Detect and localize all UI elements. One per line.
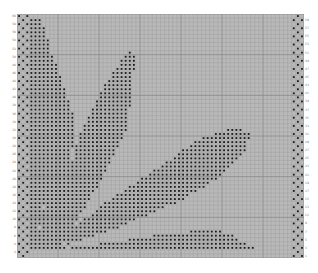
stitch-dot [59, 178, 61, 180]
stitch-dot [26, 153, 28, 155]
stitch-dot [39, 157, 41, 159]
stitch-dot [293, 157, 295, 159]
stitch-dot [166, 194, 168, 196]
stitch-dot [26, 235, 28, 237]
stitch-dot [51, 153, 53, 155]
stitch-dot [51, 80, 53, 82]
stitch-dot [63, 101, 65, 103]
stitch-dot [235, 141, 237, 143]
stitch-dot [186, 149, 188, 151]
row-label: 41 [305, 91, 309, 95]
stitch-dot [125, 125, 127, 127]
stitch-dot [137, 186, 139, 188]
stitch-dot [203, 153, 205, 155]
stitch-dot [297, 145, 299, 147]
stitch-dot [35, 27, 37, 29]
stitch-dot [30, 84, 32, 86]
stitch-dot [51, 210, 53, 212]
stitch-dot [92, 186, 94, 188]
stitch-dot [43, 227, 45, 229]
stitch-dot [43, 121, 45, 123]
stitch-dot [55, 214, 57, 216]
stitch-dot [133, 194, 135, 196]
row-label: 20 [12, 177, 16, 181]
stitch-dot [145, 202, 147, 204]
stitch-dot [162, 170, 164, 172]
stitch-dot [47, 109, 49, 111]
stitch-dot [96, 109, 98, 111]
stitch-dot [203, 182, 205, 184]
stitch-dot [22, 27, 24, 29]
stitch-dot [162, 243, 164, 245]
stitch-dot [43, 133, 45, 135]
stitch-dot [121, 218, 123, 220]
stitch-dot [117, 101, 119, 103]
stitch-dot [211, 243, 213, 245]
stitch-dot [301, 125, 303, 127]
stitch-dot [215, 145, 217, 147]
stitch-dot [88, 166, 90, 168]
stitch-dot [207, 178, 209, 180]
stitch-dot [88, 145, 90, 147]
stitch-dot [84, 137, 86, 139]
stitch-dot [30, 206, 32, 208]
stitch-dot [231, 129, 233, 131]
stitch-dot [35, 68, 37, 70]
stitch-dot [166, 182, 168, 184]
stitch-dot [39, 243, 41, 245]
stitch-dot [297, 48, 299, 50]
stitch-dot [63, 141, 65, 143]
stitch-dot [145, 194, 147, 196]
stitch-dot [297, 40, 299, 42]
row-label: 24 [12, 160, 16, 164]
stitch-dot [55, 80, 57, 82]
stitch-dot [186, 166, 188, 168]
stitch-dot [96, 133, 98, 135]
stitch-dot [39, 64, 41, 66]
stitch-dot [133, 190, 135, 192]
stitch-dot [96, 231, 98, 233]
stitch-dot [71, 166, 73, 168]
stitch-dot [129, 206, 131, 208]
stitch-dot [30, 190, 32, 192]
stitch-dot [71, 214, 73, 216]
stitch-dot [84, 174, 86, 176]
stitch-dot [108, 80, 110, 82]
stitch-dot [39, 60, 41, 62]
stitch-dot [293, 19, 295, 21]
stitch-dot [108, 214, 110, 216]
stitch-dot [67, 218, 69, 220]
stitch-dot [18, 194, 20, 196]
stitch-dot [43, 27, 45, 29]
stitch-dot [63, 218, 65, 220]
stitch-dot [18, 235, 20, 237]
row-label: 6 [14, 234, 16, 238]
stitch-dot [301, 92, 303, 94]
stitch-dot [59, 202, 61, 204]
stitch-dot [76, 178, 78, 180]
stitch-dot [88, 235, 90, 237]
stitch-dot [80, 235, 82, 237]
stitch-dot [248, 137, 250, 139]
stitch-dot [125, 214, 127, 216]
stitch-dot [30, 121, 32, 123]
stitch-dot [104, 231, 106, 233]
stitch-dot [301, 117, 303, 119]
stitch-dot [301, 190, 303, 192]
stitch-dot [215, 247, 217, 249]
stitch-dot [67, 162, 69, 164]
stitch-dot [108, 129, 110, 131]
stitch-dot [71, 239, 73, 241]
stitch-dot [240, 243, 242, 245]
stitch-dot [199, 166, 201, 168]
stitch-dot [235, 149, 237, 151]
stitch-dot [22, 35, 24, 37]
stitch-dot [125, 129, 127, 131]
stitch-dot [182, 170, 184, 172]
stitch-dot [141, 198, 143, 200]
stitch-dot [47, 227, 49, 229]
row-label: 58 [12, 22, 16, 26]
stitch-dot [137, 214, 139, 216]
stitch-dot [219, 247, 221, 249]
stitch-dot [121, 109, 123, 111]
